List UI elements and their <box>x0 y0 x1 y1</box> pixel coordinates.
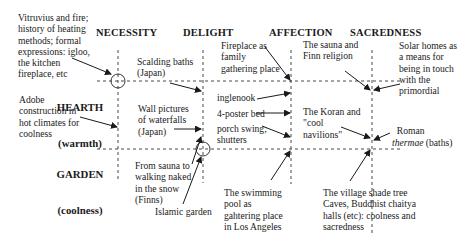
note-sauna-finn: The sauna and Finn religion <box>303 39 358 62</box>
note-islamic-garden: Islamic garden <box>155 206 212 217</box>
note-four-poster-bed: 4-poster bed <box>217 108 265 119</box>
thermae-label: thermae <box>392 137 423 148</box>
row-label-garden: GARDEN <box>38 168 122 180</box>
note-porch-swing: porch swing; shutters <box>217 123 267 146</box>
row-sub-garden: (coolness) <box>38 204 122 216</box>
note-roman-thermae: Romanthermae (baths) <box>392 114 452 148</box>
note-from-sauna: From sauna to walking naked in the snow … <box>135 160 191 205</box>
note-wall-pictures: Wall pictures of waterfalls (Japan) <box>138 103 189 137</box>
column-header-delight: DELIGHT <box>183 27 233 38</box>
note-swimming-pool: The swimming pool as gahtering place in … <box>224 187 283 232</box>
note-vitruvius: Vitruvius and fire; history of heating m… <box>18 12 90 80</box>
column-header-necessity: NECESSITY <box>96 27 157 38</box>
note-inglenook: inglenook <box>217 92 255 103</box>
column-header-sacredness: SACREDNESS <box>350 27 421 38</box>
note-koran: The Koran and "cool navilions" <box>303 106 361 140</box>
baths-label: (baths) <box>423 137 452 148</box>
note-solar-homes: Solar homes as a means for being in touc… <box>399 40 457 96</box>
note-scalding-baths: Scalding baths (Japan) <box>137 56 193 79</box>
roman-label: Roman <box>397 125 425 136</box>
note-fireplace: Fireplace as family gathering place <box>221 40 280 74</box>
row-header-garden: GARDEN (coolness) <box>38 144 122 228</box>
note-village-shade-tree: The village shade tree Caves, Buddhist c… <box>323 187 416 232</box>
column-header-affection: AFFECTION <box>269 27 333 38</box>
note-adobe: Adobe construction in hot climates for c… <box>19 94 79 139</box>
